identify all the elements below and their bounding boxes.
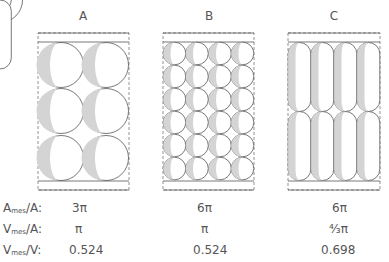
value-c: ⁴⁄₃π	[329, 222, 348, 236]
table-row-volume-ratio: Vmes/V: 0.524 0.524 0.698	[0, 243, 389, 262]
value-c: 6π	[332, 201, 347, 215]
row-label: Vmes/V:	[3, 243, 41, 257]
value-a: π	[75, 222, 82, 236]
table-row-area-ratio: Ames/A: 3π 6π 6π	[0, 201, 389, 221]
value-a: 0.524	[69, 243, 103, 257]
value-b: π	[201, 222, 208, 236]
row-label: Vmes/A:	[3, 222, 42, 236]
value-a: 3π	[72, 201, 87, 215]
packing-diagram	[0, 0, 389, 200]
value-c: 0.698	[321, 243, 355, 257]
panel-a	[0, 0, 129, 190]
table-row-volume-area-ratio: Vmes/A: π π ⁴⁄₃π	[0, 222, 389, 242]
value-b: 6π	[197, 201, 212, 215]
value-b: 0.524	[193, 243, 227, 257]
row-label: Ames/A:	[3, 201, 42, 215]
